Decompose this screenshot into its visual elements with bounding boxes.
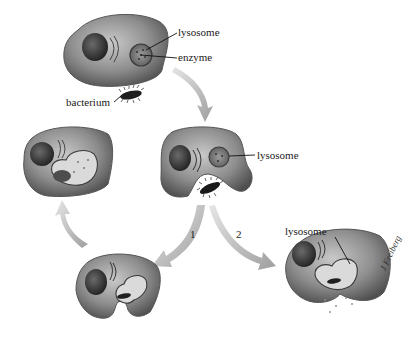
nucleus xyxy=(82,33,108,61)
nucleus xyxy=(30,142,54,166)
arrow-up xyxy=(55,200,88,248)
lysosome xyxy=(209,147,229,167)
cell-4 xyxy=(24,127,113,197)
diagram-canvas: lysosome enzyme bacterium lysosome lysos… xyxy=(0,0,414,339)
label-lysosome-center: lysosome xyxy=(257,150,299,161)
label-lysosome-right: lysosome xyxy=(285,226,327,237)
cell-5 xyxy=(286,229,391,313)
label-bacterium: bacterium xyxy=(66,97,110,108)
label-lysosome-top: lysosome xyxy=(178,27,220,38)
arrow-down xyxy=(172,67,213,122)
cell-3 xyxy=(76,254,160,318)
bacterium xyxy=(119,85,144,103)
nucleus xyxy=(169,145,191,171)
cell-1 xyxy=(64,14,177,103)
path-label-2: 2 xyxy=(236,228,242,240)
nucleus xyxy=(85,269,107,295)
label-enzyme: enzyme xyxy=(178,52,212,63)
nucleus xyxy=(292,241,316,267)
cell-2 xyxy=(161,127,255,198)
arrow-path-2 xyxy=(209,205,276,270)
arrow-path-1 xyxy=(152,205,205,267)
digested-bacterium xyxy=(53,170,71,182)
path-label-1: 1 xyxy=(190,228,196,240)
bacterium xyxy=(197,177,223,198)
